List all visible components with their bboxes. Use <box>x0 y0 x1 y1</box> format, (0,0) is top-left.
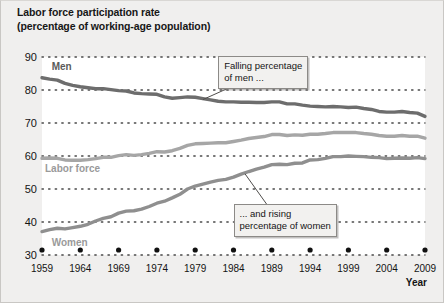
x-axis-tick: 1989 <box>261 263 283 274</box>
x-axis-tick: 1969 <box>107 263 129 274</box>
x-axis-tick: 1979 <box>184 263 206 274</box>
x-axis-tick: 1984 <box>222 263 244 274</box>
series-label-labor-force: Labor force <box>45 163 100 174</box>
x-axis-tick: 1974 <box>146 263 168 274</box>
chart-title-line-2: (percentage of working-age population) <box>17 20 210 34</box>
x-axis-tick-dots <box>39 247 427 252</box>
chart-title-line-1: Labor force participation rate <box>17 6 210 20</box>
x-axis-tick: 1999 <box>337 263 359 274</box>
chart-figure: Labor force participation rate (percenta… <box>0 0 444 303</box>
y-axis-tick: 60 <box>25 150 37 162</box>
series-label-men: Men <box>52 61 72 72</box>
x-axis-tick: 2004 <box>376 263 398 274</box>
annotation-women: ... and rising percentage of women <box>234 204 337 237</box>
annotation-men: Falling percentage of men ... <box>218 56 308 89</box>
y-axis-tick: 80 <box>25 84 37 96</box>
x-axis-tick: 1994 <box>299 263 321 274</box>
y-axis-tick: 90 <box>25 51 37 63</box>
series-label-women: Women <box>52 237 88 248</box>
chart-title: Labor force participation rate (percenta… <box>17 6 210 33</box>
plot-area: 90807060504030 1959196419691974197919841… <box>42 57 425 255</box>
x-axis-tick: 1959 <box>31 263 53 274</box>
x-axis-tick: 2009 <box>414 263 436 274</box>
y-axis-tick: 70 <box>25 117 37 129</box>
x-axis-tick: 1964 <box>69 263 91 274</box>
x-axis-title: Year <box>406 277 427 288</box>
y-axis-tick: 40 <box>25 216 37 228</box>
y-axis-tick: 50 <box>25 183 37 195</box>
y-axis-tick: 30 <box>25 249 37 261</box>
